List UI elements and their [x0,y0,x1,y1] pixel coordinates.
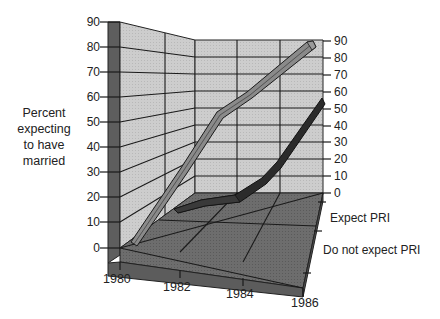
right-tick-label: 20 [334,152,347,166]
x-tick-label: 1982 [163,280,191,294]
y-axis-label-line: married [8,153,80,169]
y-axis-label-line: to have [8,137,80,153]
depth-label-do-not-expect-pri: Do not expect PRI [323,243,420,257]
left-tick-label: 60 [74,90,100,104]
x-tick-label: 1984 [226,287,254,301]
right-tick-label: 70 [334,68,347,82]
left-wall-edge [108,22,120,263]
x-tick-label: 1986 [291,296,319,310]
chart: Percent expecting to have married 90 80 … [0,0,440,319]
right-tick-label: 90 [334,34,347,48]
right-tick-label: 10 [334,169,347,183]
left-tick-label: 30 [74,165,100,179]
left-tick-label: 20 [74,190,100,204]
right-tick-label: 40 [334,119,347,133]
right-tick-label: 80 [334,51,347,65]
left-tick-label: 0 [74,241,100,255]
left-tick-label: 70 [74,65,100,79]
right-tick-label: 30 [334,135,347,149]
left-tick-label: 40 [74,140,100,154]
y-axis-label-line: expecting [8,121,80,137]
right-tick-label: 50 [334,102,347,116]
left-tick-label: 50 [74,115,100,129]
left-tick-label: 10 [74,215,100,229]
x-tick-label: 1980 [103,272,131,286]
depth-label-expect-pri: Expect PRI [330,211,390,225]
left-tick-label: 80 [74,40,100,54]
right-tick-label: 60 [334,85,347,99]
right-tick-label: 0 [334,186,341,200]
y-axis-label: Percent expecting to have married [8,105,80,169]
left-tick-label: 90 [74,15,100,29]
y-axis-label-line: Percent [8,105,80,121]
